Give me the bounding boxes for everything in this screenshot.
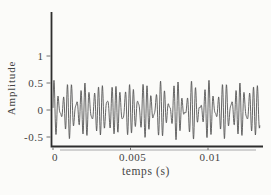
- y-tick-label: 1: [38, 50, 44, 62]
- waveform-figure: 10.50-0.500.0050.01 Amplitude temps (s): [0, 0, 271, 195]
- y-tick-label: 0: [38, 104, 44, 116]
- x-tick-label: 0.005: [119, 151, 146, 163]
- x-axis-title: temps (s): [103, 165, 189, 177]
- y-tick-label: 0.5: [28, 77, 43, 89]
- y-tick-label: -0.5: [24, 131, 43, 143]
- signal-trace: [53, 80, 260, 139]
- x-tick-label: 0.01: [199, 151, 220, 163]
- x-tick-label: 0: [52, 151, 58, 163]
- y-axis-title: Amplitude: [5, 53, 17, 123]
